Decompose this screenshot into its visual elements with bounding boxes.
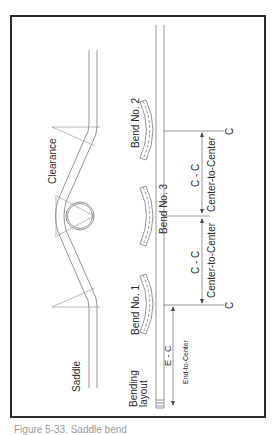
label-bending-layout-2: layout — [138, 380, 149, 407]
label-clearance: Clearance — [47, 138, 58, 184]
label-saddle: Saddle — [71, 360, 82, 392]
saddle-conduit — [56, 50, 98, 388]
label-c-bottom: C — [224, 302, 235, 309]
label-end-to-center: End-to-Center — [182, 339, 189, 384]
label-center-to-center-upper: Center-to-Center — [206, 136, 217, 212]
obstruction-circle — [66, 202, 94, 230]
bend-1-arc — [140, 274, 153, 334]
bend-3-arc — [140, 186, 153, 246]
figure-frame — [11, 16, 265, 417]
label-bend-1: Bend No. 1 — [130, 285, 141, 335]
label-bend-3: Bend No. 3 — [158, 184, 169, 234]
label-center-to-center-lower: Center-to-Center — [206, 222, 217, 298]
label-cc-upper: C - C — [190, 164, 201, 187]
label-bend-2: Bend No. 2 — [130, 98, 141, 148]
label-ec: E - C — [163, 345, 173, 366]
figure-caption: Figure 5-33. Saddle bend — [14, 424, 127, 435]
label-c-top: C — [224, 128, 235, 135]
label-cc-lower: C - C — [190, 251, 201, 274]
bend-2-arc — [140, 100, 153, 160]
